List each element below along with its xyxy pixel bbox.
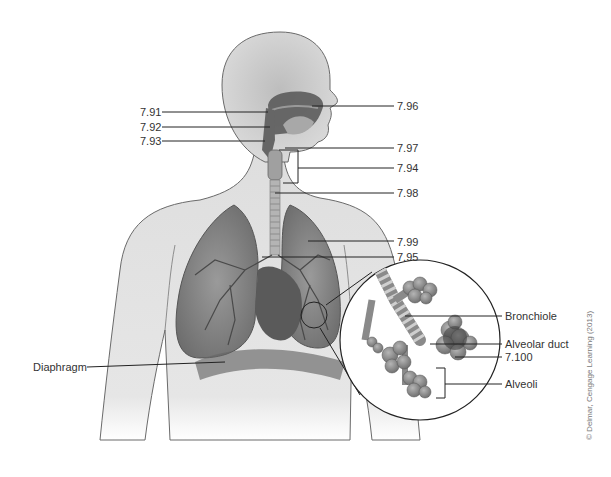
head — [222, 32, 337, 162]
label-7-99: 7.99 — [397, 236, 418, 248]
label-7-98: 7.98 — [397, 187, 418, 199]
label-7-100: 7.100 — [505, 351, 533, 363]
anatomy-illustration — [0, 0, 611, 477]
label-7-95: 7.95 — [397, 251, 418, 263]
label-7-94: 7.94 — [397, 162, 418, 174]
label-7-97: 7.97 — [397, 142, 418, 154]
respiratory-diagram: 7.91 7.92 7.93 Diaphragm 7.96 7.97 7.94 … — [0, 0, 611, 477]
label-7-92: 7.92 — [140, 121, 161, 133]
label-7-91: 7.91 — [140, 106, 161, 118]
label-7-93: 7.93 — [140, 135, 161, 147]
copyright-credit: © Delmar, Cengage Learning (2013) — [585, 311, 594, 440]
label-bronchiole: Bronchiole — [505, 310, 557, 322]
label-alveolar-duct: Alveolar duct — [505, 338, 569, 350]
label-diaphragm: Diaphragm — [33, 361, 87, 373]
label-alveoli: Alveoli — [505, 378, 537, 390]
label-7-96: 7.96 — [397, 100, 418, 112]
